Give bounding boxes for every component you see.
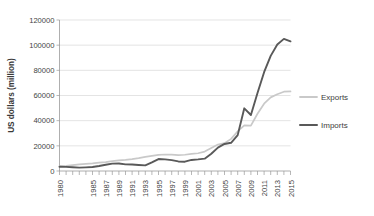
y-axis-title: US dollars (million) xyxy=(7,58,16,133)
y-tick-label: 40000 xyxy=(33,116,54,125)
x-tick-label: 2007 xyxy=(234,180,243,197)
x-tick-label: 1985 xyxy=(89,180,98,197)
x-tick-label: 2011 xyxy=(260,180,269,196)
y-tick-label: 80000 xyxy=(33,66,54,75)
y-tick-label: 100000 xyxy=(29,41,54,50)
x-tick-label: 1980 xyxy=(56,180,65,197)
x-tick-label: 2013 xyxy=(273,180,282,197)
x-tick-label: 1995 xyxy=(155,180,164,197)
x-tick-label: 2001 xyxy=(194,180,203,197)
x-tick-label: 2009 xyxy=(247,180,256,197)
legend-label-exports: Exports xyxy=(321,93,348,102)
x-tick-label: 1989 xyxy=(115,180,124,197)
x-tick-label: 2015 xyxy=(287,180,296,197)
x-tick-label: 1987 xyxy=(102,180,111,197)
x-tick-label: 1991 xyxy=(128,180,137,197)
y-axis-title-group: US dollars (million) xyxy=(7,58,16,133)
y-tick-label: 60000 xyxy=(33,91,54,100)
x-tick-labels-group: 1980198519871989199119931995199719992001… xyxy=(56,180,296,197)
y-tick-label: 120000 xyxy=(29,16,54,25)
chart-container: 020000400006000080000100000120000 198019… xyxy=(0,0,374,216)
x-tick-label: 2005 xyxy=(221,180,230,197)
line-chart: 020000400006000080000100000120000 198019… xyxy=(0,0,374,216)
x-tick-label: 2003 xyxy=(207,180,216,197)
x-tick-label: 1999 xyxy=(181,180,190,197)
y-tick-label: 20000 xyxy=(33,142,54,151)
legend-label-imports: Imports xyxy=(321,121,348,130)
x-tick-label: 1997 xyxy=(168,180,177,197)
y-tick-label: 0 xyxy=(50,167,54,176)
x-tick-label: 1993 xyxy=(141,180,150,197)
